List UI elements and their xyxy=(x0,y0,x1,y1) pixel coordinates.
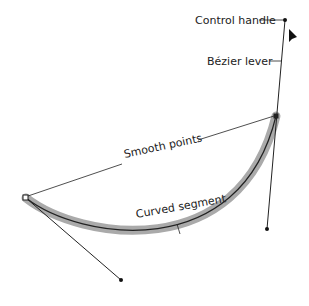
smooth-points-leader-right xyxy=(198,116,274,140)
bezier-lever-start xyxy=(26,198,121,280)
anchor-point-start[interactable] xyxy=(23,195,28,200)
smooth-points-leader-left xyxy=(28,164,122,196)
control-handle-bottom[interactable] xyxy=(265,227,269,231)
anchor-point-end[interactable] xyxy=(274,114,279,119)
control-handle-label: Control handle xyxy=(195,14,276,27)
bezier-lever-label: Bézier lever xyxy=(207,55,273,68)
cursor-arrow-icon xyxy=(289,29,297,42)
bezier-diagram: Control handle Bézier lever Smooth point… xyxy=(0,0,309,306)
control-handle-start[interactable] xyxy=(119,278,123,282)
